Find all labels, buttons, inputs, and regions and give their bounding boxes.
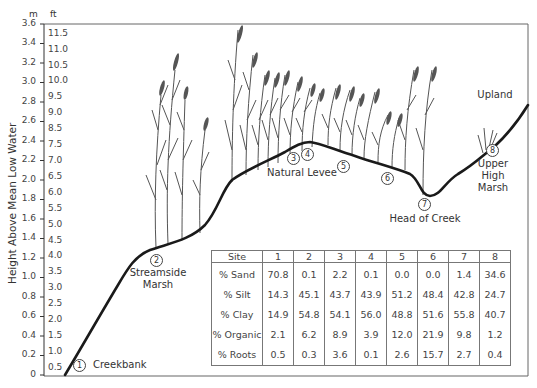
tick-m: 3.2 bbox=[6, 57, 36, 67]
table-cell: 9.8 bbox=[449, 325, 480, 345]
table-cell: 55.8 bbox=[449, 305, 480, 325]
unit-ft: ft bbox=[50, 9, 57, 19]
table-row: % Clay 14.9 54.8 54.1 56.0 48.8 51.6 55.… bbox=[212, 305, 511, 325]
table-header-cell: Site bbox=[212, 251, 263, 263]
table-cell: 40.7 bbox=[480, 305, 511, 325]
table-cell: 14.9 bbox=[263, 305, 294, 325]
table-cell: 54.8 bbox=[294, 305, 325, 325]
label-head-of-creek: Head of Creek bbox=[383, 213, 467, 225]
table-cell: 1.4 bbox=[449, 263, 480, 286]
table-cell: 0.1 bbox=[356, 345, 387, 366]
tick-ft: 7.0 bbox=[48, 155, 62, 165]
row-label: % Organic bbox=[212, 325, 263, 345]
table-cell: 51.6 bbox=[418, 305, 449, 325]
tick-m: 0 bbox=[6, 369, 36, 379]
table-cell: 54.1 bbox=[325, 305, 356, 325]
table-header-cell: 1 bbox=[263, 251, 294, 263]
table-header-cell: 3 bbox=[325, 251, 356, 263]
tick-ft: 5.5 bbox=[48, 203, 62, 213]
tick-ft: 2.5 bbox=[48, 298, 62, 308]
table-header-cell: 4 bbox=[356, 251, 387, 263]
tick-ft: 10.0 bbox=[48, 75, 68, 85]
row-label: % Sand bbox=[212, 263, 263, 286]
table-cell: 2.2 bbox=[325, 263, 356, 286]
table-cell: 34.6 bbox=[480, 263, 511, 286]
table-cell: 3.6 bbox=[325, 345, 356, 366]
table-cell: 2.1 bbox=[263, 325, 294, 345]
row-label: % Silt bbox=[212, 285, 263, 305]
table-cell: 0.0 bbox=[387, 263, 418, 286]
tick-m: 3.4 bbox=[6, 37, 36, 47]
table-cell: 0.0 bbox=[418, 263, 449, 286]
tick-ft: 0.5 bbox=[48, 362, 62, 372]
label-upland: Upland bbox=[475, 89, 515, 101]
label-creekbank: Creekbank bbox=[93, 359, 147, 371]
table-cell: 14.3 bbox=[263, 285, 294, 305]
tick-ft: 2.0 bbox=[48, 314, 62, 324]
tick-m: 2.8 bbox=[6, 96, 36, 106]
site-marker-6: 6 bbox=[381, 172, 394, 185]
table-cell: 6.2 bbox=[294, 325, 325, 345]
tick-m: 3.6 bbox=[6, 18, 36, 28]
table-header-cell: 2 bbox=[294, 251, 325, 263]
tick-ft: 9.0 bbox=[48, 107, 62, 117]
tick-ft: 9.5 bbox=[48, 91, 62, 101]
table-row: % Silt 14.3 45.1 43.7 43.9 51.2 48.4 42.… bbox=[212, 285, 511, 305]
table-cell: 15.7 bbox=[418, 345, 449, 366]
table-cell: 0.5 bbox=[263, 345, 294, 366]
tick-ft: 1.0 bbox=[48, 346, 62, 356]
label-upper-high-marsh: Upper High Marsh bbox=[472, 158, 514, 194]
label-upper-line3: Marsh bbox=[472, 182, 514, 194]
table-row: % Organic 2.1 6.2 8.9 3.9 12.0 21.9 9.8 … bbox=[212, 325, 511, 345]
tick-ft: 6.0 bbox=[48, 187, 62, 197]
label-upper-line1: Upper bbox=[472, 158, 514, 170]
y-axis-title: Height Above Mean Low Water bbox=[6, 124, 18, 284]
table-cell: 43.9 bbox=[356, 285, 387, 305]
table-cell: 2.7 bbox=[449, 345, 480, 366]
table-cell: 8.9 bbox=[325, 325, 356, 345]
site-marker-2: 2 bbox=[150, 254, 163, 267]
table-cell: 0.1 bbox=[356, 263, 387, 286]
tick-ft: 10.5 bbox=[48, 60, 68, 70]
table-row: % Roots 0.5 0.3 3.6 0.1 2.6 15.7 2.7 0.4 bbox=[212, 345, 511, 366]
table-cell: 48.8 bbox=[387, 305, 418, 325]
tick-m: 3.0 bbox=[6, 76, 36, 86]
site-marker-3: 3 bbox=[287, 152, 300, 165]
tick-ft: 8.5 bbox=[48, 123, 62, 133]
tick-m: 0.4 bbox=[6, 330, 36, 340]
tick-m: 0.6 bbox=[6, 310, 36, 320]
table-cell: 42.8 bbox=[449, 285, 480, 305]
table-row: % Sand 70.8 0.1 2.2 0.1 0.0 0.0 1.4 34.6 bbox=[212, 263, 511, 286]
table-cell: 0.3 bbox=[294, 345, 325, 366]
table-cell: 24.7 bbox=[480, 285, 511, 305]
tick-m: 0.8 bbox=[6, 291, 36, 301]
y-axis-ticks bbox=[40, 24, 44, 375]
table-cell: 21.9 bbox=[418, 325, 449, 345]
tick-ft: 1.5 bbox=[48, 330, 62, 340]
table-cell: 2.6 bbox=[387, 345, 418, 366]
table-cell: 45.1 bbox=[294, 285, 325, 305]
table-cell: 0.4 bbox=[480, 345, 511, 366]
tick-ft: 4.0 bbox=[48, 250, 62, 260]
tick-ft: 3.5 bbox=[48, 266, 62, 276]
label-natural-levee: Natural Levee bbox=[262, 167, 342, 179]
row-label: % Roots bbox=[212, 345, 263, 366]
table-cell: 43.7 bbox=[325, 285, 356, 305]
tick-m: 0.2 bbox=[6, 349, 36, 359]
table-cell: 48.4 bbox=[418, 285, 449, 305]
label-streamside-line1: Streamside bbox=[128, 267, 188, 279]
tick-ft: 3.0 bbox=[48, 282, 62, 292]
table-cell: 1.2 bbox=[480, 325, 511, 345]
label-streamside-marsh: Streamside Marsh bbox=[128, 267, 188, 291]
table-header-cell: 5 bbox=[387, 251, 418, 263]
site-marker-4: 4 bbox=[301, 148, 314, 161]
table-header-cell: 6 bbox=[418, 251, 449, 263]
table-cell: 70.8 bbox=[263, 263, 294, 286]
tick-ft: 11.5 bbox=[48, 28, 68, 38]
table-header-cell: 7 bbox=[449, 251, 480, 263]
table-header-cell: 8 bbox=[480, 251, 511, 263]
tick-ft: 5.0 bbox=[48, 219, 62, 229]
table-cell: 0.1 bbox=[294, 263, 325, 286]
tick-ft: 11.0 bbox=[48, 44, 68, 54]
row-label: % Clay bbox=[212, 305, 263, 325]
